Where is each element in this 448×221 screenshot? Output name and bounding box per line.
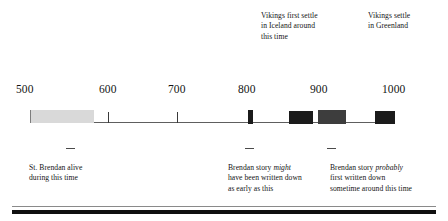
leader-dash-might	[245, 148, 254, 149]
page-rule-thick	[12, 210, 436, 214]
caption-line: during this time	[29, 173, 78, 182]
axis-label-700: 700	[168, 82, 186, 96]
band-vikings-greenland	[375, 111, 395, 124]
leader-dash-probably	[327, 148, 336, 149]
annotation-st-brendan-alive: St. Brendan alive during this time	[29, 163, 139, 184]
caption-line: have been written down	[228, 173, 302, 182]
caption-emphasis: probably	[375, 163, 403, 172]
caption-line: first written down	[330, 173, 385, 182]
band-st-brendan-alive	[30, 110, 94, 123]
caption-line: as early as this	[228, 184, 273, 193]
axis-label-500: 500	[16, 82, 34, 96]
annotation-story-might: Brendan story might have been written do…	[228, 163, 336, 194]
annotation-vikings-iceland: Vikings first settle in Iceland around t…	[261, 11, 345, 42]
caption-line: St. Brendan alive	[29, 163, 82, 172]
axis-label-900: 900	[310, 82, 328, 96]
band-story-might-written	[248, 110, 253, 124]
page-rule-thin	[12, 206, 436, 207]
axis-label-800: 800	[238, 82, 256, 96]
annotation-vikings-greenland: Vikings settle in Greenland	[368, 11, 444, 32]
axis-label-600: 600	[99, 82, 117, 96]
leader-dash-brendan-alive	[66, 148, 75, 149]
timeline-figure: Vikings first settle in Iceland around t…	[0, 0, 448, 221]
caption-line: sometime around this time	[330, 184, 412, 193]
annotation-story-probably: Brendan story probably first written dow…	[330, 163, 448, 194]
tick-700	[177, 112, 178, 123]
caption-emphasis: might	[273, 163, 291, 172]
caption-line: Brendan story	[228, 163, 273, 172]
axis-label-1000: 1000	[382, 82, 405, 96]
band-vikings-iceland	[289, 111, 313, 124]
band-story-probably-written	[318, 110, 346, 124]
tick-600	[108, 112, 109, 123]
caption-line: Brendan story	[330, 163, 375, 172]
